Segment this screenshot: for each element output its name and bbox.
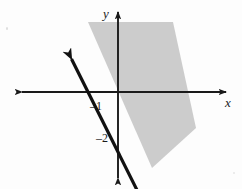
y-axis-label: y	[101, 6, 109, 21]
x-intercept-label: –1	[89, 99, 102, 113]
graph-figure: y x –1 –2	[0, 0, 242, 189]
shaded-region	[88, 22, 196, 168]
x-axis-label: x	[224, 95, 231, 110]
coordinate-plane: y x –1 –2	[0, 0, 242, 189]
y-intercept-label: –2	[95, 131, 108, 145]
